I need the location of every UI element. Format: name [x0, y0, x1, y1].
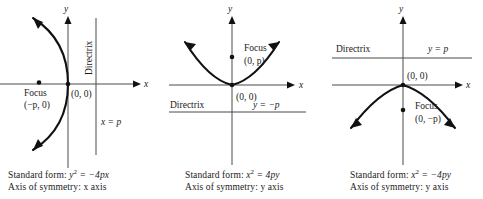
standard-form-prefix: Standard form:: [185, 170, 246, 180]
axis-of-symmetry-line: Axis of symmetry: y axis: [185, 182, 345, 194]
standard-form-rest: = 4py: [254, 170, 279, 180]
directrix-equation-label: x = p: [100, 117, 121, 127]
y-axis-arrowhead: [400, 16, 407, 24]
directrix-equation-label: y = p: [427, 44, 448, 54]
x-axis-arrowhead: [455, 82, 463, 89]
x-axis-label: x: [465, 80, 471, 90]
parabola-arrowhead-upper: [33, 18, 43, 29]
directrix-equation-label: y = −p: [252, 100, 280, 110]
x-axis-arrowhead: [287, 82, 295, 89]
parabola-panel-opens-down: (0, 0) Focus (0, −p) Directrix y = p x y…: [322, 0, 483, 199]
panel-1-plot: (0, 0) Focus (−p, 0) Directrix x = p x y: [0, 0, 161, 168]
y-axis-label: y: [398, 4, 404, 14]
focus-point: [401, 108, 406, 113]
y-axis-arrowhead: [65, 16, 72, 24]
standard-form-line: Standard form: y2 = −4px: [8, 170, 168, 182]
parabola-standard-forms-figure: (0, 0) Focus (−p, 0) Directrix x = p x y…: [0, 0, 483, 199]
standard-form-line: Standard form: x2 = 4py: [185, 170, 345, 182]
axis-of-symmetry-line: Axis of symmetry: x axis: [8, 182, 168, 194]
focus-label: Focus: [415, 101, 438, 111]
standard-form-prefix: Standard form:: [8, 170, 69, 180]
y-axis-label: y: [227, 4, 233, 14]
parabola-panel-opens-up: (0, 0) Focus (0, p) Directrix y = −p x y…: [161, 0, 322, 199]
vertex-label: (0, 0): [407, 71, 428, 82]
parabola-arrowhead-left: [185, 42, 196, 51]
standard-form-rest: = −4px: [77, 170, 109, 180]
parabola-arrowhead-lower: [33, 139, 43, 150]
standard-form-rest: = −4py: [419, 170, 451, 180]
focus-label: Focus: [24, 88, 47, 98]
panel-2-caption: Standard form: x2 = 4py Axis of symmetry…: [185, 170, 345, 193]
focus-coords-label: (0, −p): [415, 114, 441, 125]
standard-form-line: Standard form: x2 = −4py: [350, 170, 483, 182]
parabola-arrowhead-right: [444, 118, 455, 128]
parabola-arrowhead-left: [351, 118, 362, 128]
vertex-point: [230, 83, 235, 88]
x-axis-label: x: [298, 80, 304, 90]
focus-point: [230, 55, 235, 60]
focus-coords-label: (0, p): [244, 56, 265, 67]
y-axis-label: y: [63, 4, 69, 14]
panel-3-caption: Standard form: x2 = −4py Axis of symmetr…: [350, 170, 483, 193]
y-axis-arrowhead: [229, 16, 236, 24]
panel-1-caption: Standard form: y2 = −4px Axis of symmetr…: [8, 170, 168, 193]
parabola-arrowhead-right: [268, 42, 279, 51]
parabola-panel-opens-left: (0, 0) Focus (−p, 0) Directrix x = p x y…: [0, 0, 161, 199]
directrix-label: Directrix: [336, 44, 371, 54]
focus-point: [37, 80, 42, 85]
directrix-label: Directrix: [84, 40, 94, 75]
panel-2-plot: (0, 0) Focus (0, p) Directrix y = −p x y: [161, 0, 322, 168]
vertex-point: [66, 82, 71, 87]
x-axis-arrowhead: [133, 81, 141, 88]
vertex-point: [401, 83, 406, 88]
axis-of-symmetry-line: Axis of symmetry: y axis: [350, 182, 483, 194]
vertex-label: (0, 0): [71, 89, 92, 100]
x-axis-label: x: [143, 79, 149, 89]
panel-3-plot: (0, 0) Focus (0, −p) Directrix y = p x y: [322, 0, 483, 168]
focus-coords-label: (−p, 0): [24, 100, 50, 111]
directrix-label: Directrix: [170, 100, 205, 110]
standard-form-prefix: Standard form:: [350, 170, 411, 180]
focus-label: Focus: [244, 43, 267, 53]
